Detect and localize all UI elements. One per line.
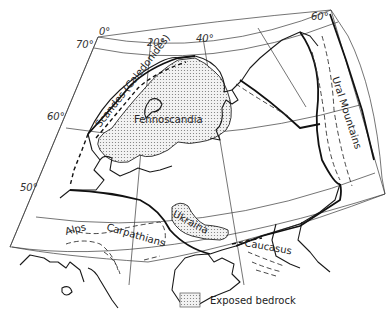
lat-label-60: 60° (47, 111, 65, 122)
alps-label: Alps (64, 221, 87, 237)
lon-label-0: 0° (99, 26, 110, 37)
lon-label-60: 60° (311, 11, 329, 22)
fennoscandia-bedrock (98, 58, 232, 163)
lon-label-40: 40° (196, 33, 214, 44)
map-canvas: 0° 20° 40° 60° 70° 60° 50° (0, 0, 386, 320)
legend-bedrock-swatch (180, 293, 200, 307)
fennoscandia-label: Fennoscandia (134, 114, 203, 125)
legend: Exposed bedrock (180, 293, 296, 307)
lat-label-50: 50° (20, 182, 38, 193)
legend-bedrock-label: Exposed bedrock (210, 295, 296, 306)
ural-mountains-label: Ural Mountains (330, 75, 364, 150)
lat-label-70: 70° (76, 39, 94, 50)
